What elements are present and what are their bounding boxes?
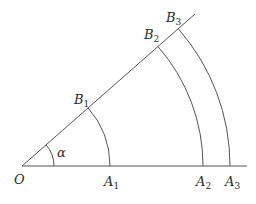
label-A2: A2 — [195, 174, 211, 191]
label-B1: B1 — [73, 92, 89, 109]
angle-arcs-diagram: O α A1 A2 A3 B1 B2 B3 — [0, 0, 256, 204]
label-A3: A3 — [224, 174, 240, 191]
label-B2: B2 — [143, 27, 159, 44]
label-A1: A1 — [103, 174, 119, 191]
angle-label-alpha: α — [57, 145, 66, 160]
slanted-ray — [22, 14, 195, 166]
label-B3: B3 — [165, 10, 182, 27]
angle-arc — [46, 145, 54, 166]
diagram-canvas: O α A1 A2 A3 B1 B2 B3 — [0, 0, 256, 204]
arc-2 — [158, 47, 203, 166]
vertex-label-O: O — [14, 172, 25, 187]
arc-3 — [178, 29, 230, 166]
arc-1 — [88, 108, 110, 166]
